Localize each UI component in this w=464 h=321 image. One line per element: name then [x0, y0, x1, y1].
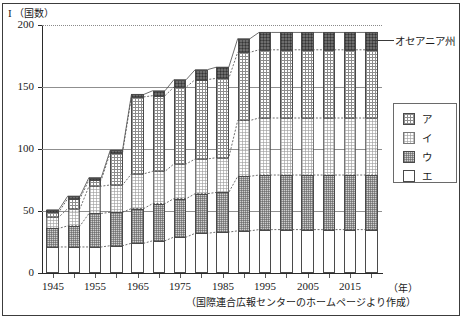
bar-segment-c [259, 175, 271, 230]
y-tick-label-100: 100 [4, 142, 34, 154]
bar-segment-a [365, 50, 377, 118]
bar-segment-a [68, 199, 80, 209]
legend-label-c: ウ [422, 151, 432, 163]
bar-segment-d [195, 233, 207, 273]
bar-segment-d [174, 237, 186, 273]
bar-segment-oceania [110, 150, 122, 152]
x-tick-mark [95, 274, 96, 278]
bar-segment-a [195, 80, 207, 159]
bar-segment-a [323, 50, 335, 118]
x-tick-label-1955: 1955 [75, 280, 115, 292]
bar-segment-b [323, 118, 335, 175]
x-tick-mark [159, 274, 160, 278]
legend-item-イ: イ [403, 132, 432, 144]
x-tick-mark [74, 274, 75, 278]
legend-swatch-icon-b [403, 132, 415, 144]
bar-segment-d [131, 243, 143, 273]
legend-item-ウ: ウ [403, 151, 432, 163]
x-tick-mark [308, 274, 309, 278]
bar-segment-b [365, 118, 377, 175]
x-tick-mark [201, 274, 202, 278]
annotation-oceania: オセアニア州 [395, 33, 455, 48]
bar-segment-d [365, 230, 377, 273]
bar-segment-c [238, 176, 250, 231]
bar-segment-d [323, 230, 335, 273]
bar-segment-oceania [216, 67, 228, 78]
y-tick-mark-50 [38, 211, 42, 212]
table-row [46, 25, 58, 273]
bar-segment-d [110, 246, 122, 273]
y-tick-label-50: 50 [4, 204, 34, 216]
x-tick-mark [329, 274, 330, 278]
bar-segment-d [68, 247, 80, 273]
bar-segment-oceania [344, 32, 356, 49]
bar-segment-a [131, 97, 143, 174]
bar-segment-oceania [153, 91, 165, 96]
bar-segment-b [238, 120, 250, 176]
bar-segment-oceania [68, 196, 80, 198]
bar-segment-b [280, 118, 292, 175]
bar-segment-b [68, 209, 80, 226]
bar-segment-a [89, 180, 101, 186]
x-tick-label-1995: 1995 [245, 280, 285, 292]
bar-segment-a [174, 87, 186, 164]
bar-segment-d [89, 247, 101, 273]
x-tick-mark [265, 274, 266, 278]
bar-segment-a [153, 96, 165, 172]
bar-segment-b [153, 171, 165, 203]
bar-segment-c [174, 199, 186, 237]
bar-segment-oceania [365, 32, 377, 49]
bar-segment-c [365, 175, 377, 230]
bar-segment-d [238, 231, 250, 273]
y-tick-mark-150 [38, 87, 42, 88]
x-tick-mark [223, 274, 224, 278]
x-tick-mark [180, 274, 181, 278]
x-tick-mark [371, 274, 372, 278]
bar-segment-c [46, 228, 58, 247]
bar-segment-d [46, 247, 58, 273]
bar-segment-c [153, 204, 165, 241]
bar-segment-c [344, 175, 356, 230]
bar-segment-d [344, 230, 356, 273]
table-row [365, 25, 377, 273]
table-row [280, 25, 292, 273]
legend-label-b: イ [422, 132, 432, 144]
table-row [68, 25, 80, 273]
table-row [301, 25, 313, 273]
table-row [153, 25, 165, 273]
x-tick-label-2015: 2015 [330, 280, 370, 292]
bar-segment-oceania [238, 39, 250, 53]
legend-swatch-icon-c [403, 151, 415, 163]
bar-segment-oceania [131, 94, 143, 96]
bar-segment-b [46, 217, 58, 228]
x-tick-label-1985: 1985 [203, 280, 243, 292]
y-tick-mark-100 [38, 149, 42, 150]
y-tick-mark-200 [38, 25, 42, 26]
bar-segment-a [280, 50, 292, 118]
bar-segment-oceania [259, 32, 271, 49]
annotation-leader-line [372, 40, 394, 41]
y-tick-label-150: 150 [4, 80, 34, 92]
x-tick-mark [53, 274, 54, 278]
legend-swatch-icon-a [403, 113, 415, 125]
legend-item-エ: エ [403, 170, 432, 182]
bar-segment-oceania [280, 32, 292, 49]
x-tick-label-1965: 1965 [118, 280, 158, 292]
legend-box: アイウエ [393, 103, 457, 183]
table-row [323, 25, 335, 273]
x-tick-mark [244, 274, 245, 278]
bar-segment-a [216, 78, 228, 157]
bar-segment-c [89, 213, 101, 246]
table-row [110, 25, 122, 273]
bar-segment-b [195, 159, 207, 194]
bar-segment-oceania [301, 32, 313, 49]
legend-label-d: エ [422, 170, 432, 182]
bar-segment-oceania [89, 178, 101, 180]
bar-segment-b [174, 164, 186, 199]
x-tick-label-1945: 1945 [33, 280, 73, 292]
bar-segment-d [301, 230, 313, 273]
table-row [89, 25, 101, 273]
y-tick-label-0: 0 [4, 266, 34, 278]
source-caption: （国際連合広報センターのホームページより作成） [186, 294, 416, 309]
table-row [216, 25, 228, 273]
